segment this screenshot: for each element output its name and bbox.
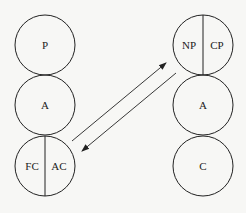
left-column: P A FC AC <box>15 15 75 196</box>
label-a-right: A <box>199 99 207 111</box>
label-a-left: A <box>41 99 49 111</box>
right-column: NP CP A C <box>173 15 233 196</box>
label-ac: AC <box>51 160 66 172</box>
right-circle-a: A <box>173 75 233 135</box>
right-circle-np-cp: NP CP <box>173 15 233 75</box>
label-np: NP <box>182 39 196 51</box>
label-c: C <box>199 160 206 172</box>
label-cp: CP <box>210 39 223 51</box>
left-circle-p: P <box>15 15 75 75</box>
diagram-canvas: P A FC AC NP CP A <box>0 0 246 213</box>
diagram-svg: P A FC AC NP CP A <box>0 0 246 213</box>
arrow-down-left <box>82 73 176 151</box>
label-fc: FC <box>25 160 38 172</box>
left-circle-a: A <box>15 75 75 135</box>
left-circle-fc-ac: FC AC <box>15 136 75 196</box>
label-p: P <box>42 39 48 51</box>
right-circle-c: C <box>173 136 233 196</box>
arrow-up-right <box>72 63 166 141</box>
